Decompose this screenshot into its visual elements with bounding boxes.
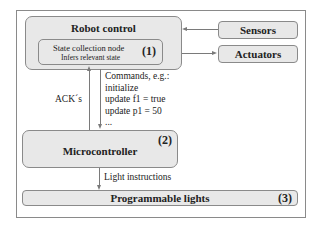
sensors-arrowhead-icon bbox=[182, 27, 187, 31]
robot-control-title: Robot control bbox=[26, 22, 181, 34]
ack-arrow-line bbox=[89, 71, 90, 130]
light-instructions-label: Light instructions bbox=[104, 172, 171, 184]
actuators-box: Actuators bbox=[218, 45, 298, 63]
sensors-title: Sensors bbox=[219, 24, 297, 36]
microcontroller-box: (2) Microcontroller bbox=[22, 130, 178, 168]
sensors-arrow-line bbox=[186, 29, 218, 30]
state-node-subtitle: Infers relevant state bbox=[61, 53, 120, 62]
commands-arrowhead-icon bbox=[98, 124, 102, 129]
commands-label: Commands, e.g.: initialize update f1 = t… bbox=[105, 71, 169, 129]
actuators-arrow-line bbox=[182, 53, 213, 54]
state-collection-node-box: State collection node Infers relevant st… bbox=[38, 39, 163, 65]
microcontroller-title: Microcontroller bbox=[23, 145, 177, 157]
commands-arrow-line bbox=[100, 69, 101, 125]
actuators-title: Actuators bbox=[219, 48, 297, 60]
ack-label: ACK´s bbox=[55, 94, 82, 106]
state-node-number: (1) bbox=[142, 44, 156, 59]
programmable-lights-box: Programmable lights (3) bbox=[22, 190, 298, 206]
actuators-arrowhead-icon bbox=[212, 51, 217, 55]
sensors-box: Sensors bbox=[218, 21, 298, 39]
light-instructions-arrow-line bbox=[99, 168, 100, 186]
ack-arrowhead-icon bbox=[87, 66, 91, 71]
programmable-lights-title: Programmable lights bbox=[23, 192, 297, 204]
programmable-lights-number: (3) bbox=[278, 191, 292, 206]
state-node-title: State collection node bbox=[53, 43, 124, 53]
